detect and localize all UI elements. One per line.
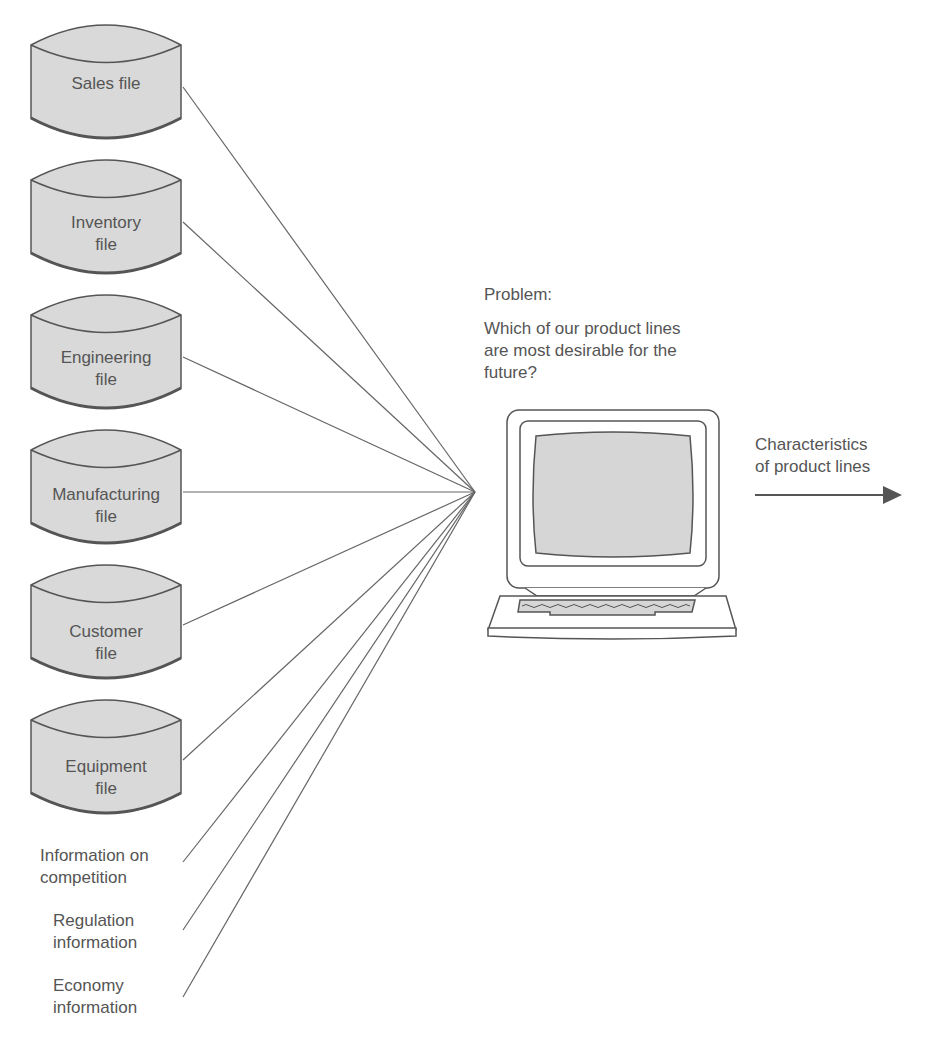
label-line: Information on (40, 845, 149, 867)
label-line: file (31, 778, 181, 800)
label-line: Regulation (53, 910, 137, 932)
label-line: file (31, 234, 181, 256)
label-line: file (31, 369, 181, 391)
label-line: Characteristics (755, 434, 870, 456)
problem-statement: Which of our product lines are most desi… (484, 318, 681, 384)
database-cylinders (31, 25, 181, 813)
database-label-equipment: Equipment file (31, 756, 181, 800)
label-line: Equipment (31, 756, 181, 778)
computer-icon (488, 410, 736, 639)
output-label: Characteristics of product lines (755, 434, 870, 478)
label-line: are most desirable for the (484, 340, 681, 362)
output-arrow (755, 486, 902, 504)
database-label-customer: Customer file (31, 621, 181, 665)
external-source-competition: Information on competition (40, 845, 149, 889)
connector-lines (183, 87, 475, 997)
database-label-inventory: Inventory file (31, 212, 181, 256)
problem-heading: Problem: (484, 284, 552, 306)
label-line: Economy (53, 975, 137, 997)
label-line: information (53, 997, 137, 1019)
label-line: Engineering (31, 347, 181, 369)
database-label-sales: Sales file (31, 73, 181, 95)
label-line: file (31, 643, 181, 665)
database-label-manufacturing: Manufacturing file (31, 484, 181, 528)
external-source-regulation: Regulation information (53, 910, 137, 954)
label-line: file (31, 506, 181, 528)
database-label-engineering: Engineering file (31, 347, 181, 391)
label-line: Inventory (31, 212, 181, 234)
label-line: Which of our product lines (484, 318, 681, 340)
external-source-economy: Economy information (53, 975, 137, 1019)
label-line: competition (40, 867, 149, 889)
label-line: information (53, 932, 137, 954)
label-line: Customer (31, 621, 181, 643)
label-line: Sales file (72, 74, 141, 93)
label-line: Manufacturing (31, 484, 181, 506)
label-line: of product lines (755, 456, 870, 478)
label-line: future? (484, 362, 681, 384)
